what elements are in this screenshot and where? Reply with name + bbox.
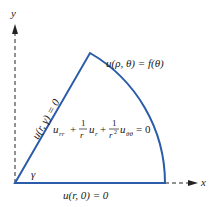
svg-text:θθ: θθ <box>126 130 133 138</box>
y-axis-arrow-icon <box>12 24 18 34</box>
svg-text:r: r <box>80 130 84 140</box>
svg-text:r: r <box>109 130 113 140</box>
angle-gamma-label: γ <box>31 168 36 180</box>
x-axis <box>165 180 198 186</box>
y-axis-label: y <box>10 7 16 19</box>
arc-boundary-condition: u(ρ, θ) = f(θ) <box>106 57 164 70</box>
laplace-equation: u rr + 1 r u r + 1 r 2 u θθ = 0 <box>53 118 151 140</box>
x-axis-boundary-condition: u(r, 0) = 0 <box>63 189 109 202</box>
x-axis-arrow-icon <box>188 180 198 186</box>
svg-text:1: 1 <box>112 118 117 128</box>
svg-text:= 0: = 0 <box>136 123 151 135</box>
svg-text:+: + <box>70 123 76 135</box>
sector-boundary <box>15 53 165 183</box>
svg-text:2: 2 <box>114 129 117 135</box>
svg-text:1: 1 <box>81 118 86 128</box>
svg-text:r: r <box>95 130 98 138</box>
x-axis-label: x <box>200 176 206 188</box>
svg-text:+: + <box>100 123 106 135</box>
sector-diagram: y x u(ρ, θ) = f(θ) u(r, γ) = 0 u(r, 0) =… <box>0 0 210 207</box>
y-axis <box>12 24 18 183</box>
svg-text:rr: rr <box>59 130 65 138</box>
